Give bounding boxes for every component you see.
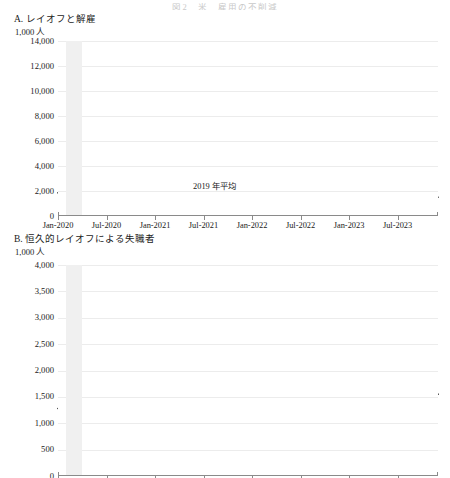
panel-b-unit-label: 1,000 人: [15, 247, 45, 257]
x-axis-end-cap: [437, 472, 438, 476]
y-tick-label: 6,000: [35, 137, 54, 146]
panel-b: B. 恒久的レイオフによる失職者 1,000 人 05001,0001,5002…: [0, 234, 450, 478]
gridline: [58, 344, 438, 345]
y-tick-label: 3,500: [35, 287, 54, 296]
gridline: [58, 41, 438, 42]
panel-a-x-labels: Jan-2020Jul-2020Jan-2021Jul-2021Jan-2022…: [0, 220, 450, 232]
y-tick-label: 4,000: [35, 162, 54, 171]
y-tick-label: 1,500: [35, 392, 54, 401]
panel-b-title: B. 恒久的レイオフによる失職者: [14, 234, 155, 245]
y-tick-label: 2,000: [35, 366, 54, 375]
panel-a-annotation: 2019 年平均: [193, 182, 236, 192]
x-tick-label: Jul-2020: [92, 220, 121, 231]
panel-a-plot-background: [58, 41, 438, 216]
gridline: [58, 450, 438, 451]
x-axis-end-cap: [58, 472, 59, 476]
panel-a-recession-band: [66, 41, 82, 216]
y-tick-label: 8,000: [35, 112, 54, 121]
x-tick-label: Jul-2022: [286, 220, 315, 231]
panel-b-plot-area: [58, 265, 438, 476]
gridline: [58, 265, 438, 266]
figure-top-title: 図2 米 雇用の不削減: [0, 0, 450, 10]
x-axis-end-cap: [58, 212, 59, 216]
y-tick-label: 2,500: [35, 340, 54, 349]
gridline: [58, 66, 438, 67]
y-tick-label: 2,000: [35, 187, 54, 196]
gridline: [58, 397, 438, 398]
x-tick-label: Jul-2023: [383, 220, 412, 231]
y-tick-label: 3,000: [35, 313, 54, 322]
panel-a: A. レイオフと解雇 1,000 人 02,0004,0006,0008,000…: [0, 14, 450, 238]
panel-a-y-axis: 02,0004,0006,0008,00010,00012,00014,000: [6, 41, 54, 216]
y-tick-label: 1,000: [35, 419, 54, 428]
panel-b-y-axis: 05001,0001,5002,0002,5003,0003,5004,000: [6, 265, 54, 476]
y-tick-label: 14,000: [30, 37, 54, 46]
x-axis-end-cap: [437, 212, 438, 216]
x-tick-label: Jan-2022: [237, 220, 268, 231]
panel-b-recession-band: [66, 265, 82, 476]
y-tick-label: 4,000: [35, 261, 54, 270]
y-tick-label: 0: [50, 472, 54, 478]
x-tick-label: Jan-2021: [140, 220, 171, 231]
y-tick-label: 12,000: [30, 62, 54, 71]
panel-b-x-axis-line: [58, 475, 438, 476]
panel-a-x-axis-line: [58, 215, 438, 216]
gridline: [58, 191, 438, 192]
gridline: [58, 116, 438, 117]
y-tick-label: 500: [41, 445, 54, 454]
x-tick-label: Jan-2023: [334, 220, 365, 231]
gridline: [58, 423, 438, 424]
panel-a-title: A. レイオフと解雇: [14, 14, 96, 25]
gridline: [58, 318, 438, 319]
gridline: [58, 91, 438, 92]
y-tick-label: 10,000: [30, 87, 54, 96]
gridline: [58, 166, 438, 167]
x-tick-label: Jan-2020: [43, 220, 74, 231]
gridline: [58, 371, 438, 372]
gridline: [58, 291, 438, 292]
panel-a-plot-area: [58, 41, 438, 216]
x-tick-label: Jul-2021: [189, 220, 218, 231]
figure-container: 図2 米 雇用の不削減 A. レイオフと解雇 1,000 人 02,0004,0…: [0, 0, 450, 478]
gridline: [58, 141, 438, 142]
